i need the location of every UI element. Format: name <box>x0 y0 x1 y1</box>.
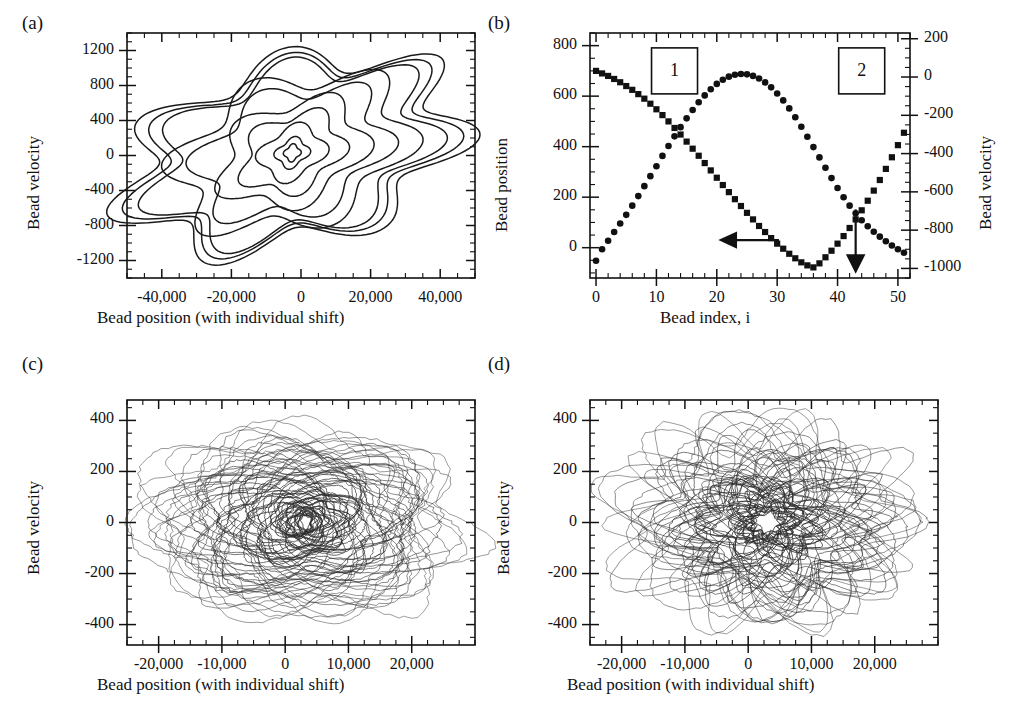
panel-d-ylabel: Bead velocity <box>494 481 514 575</box>
tick-label: -400 <box>548 614 577 632</box>
data-point-position <box>629 87 635 93</box>
tick-label: 200 <box>553 186 577 204</box>
data-point-velocity <box>834 185 841 192</box>
tick-label: 0 <box>106 145 114 163</box>
tick-label: 40,000 <box>418 288 462 306</box>
data-point-velocity <box>701 92 708 99</box>
data-point-velocity <box>593 257 600 264</box>
tick-label: -20,000 <box>207 288 256 306</box>
data-point-position <box>847 225 853 231</box>
data-point-position <box>611 76 617 82</box>
data-point-position <box>605 73 611 79</box>
tick-label: -600 <box>924 181 953 199</box>
data-point-velocity <box>768 84 775 91</box>
tick-label: 400 <box>553 136 577 154</box>
data-point-position <box>714 175 720 181</box>
tick-label: 0 <box>569 237 577 255</box>
data-point-velocity <box>732 71 739 78</box>
tick-label: 0 <box>297 288 305 306</box>
tick-label: -400 <box>85 614 114 632</box>
data-point-velocity <box>689 107 696 114</box>
data-point-velocity <box>883 238 890 245</box>
data-point-velocity <box>623 212 630 219</box>
tick-label: -200 <box>548 563 577 581</box>
tick-label: -200 <box>85 563 114 581</box>
data-point-velocity <box>895 246 902 253</box>
tick-label: 1200 <box>82 40 114 58</box>
data-point-velocity <box>901 249 908 256</box>
data-point-position <box>677 131 683 137</box>
data-point-velocity <box>726 73 733 80</box>
panel-d-xlabel: Bead position (with individual shift) <box>567 675 814 695</box>
tick-label: -800 <box>924 219 953 237</box>
data-point-velocity <box>792 114 799 121</box>
data-point-velocity <box>629 202 636 209</box>
tick-label: 40 <box>830 288 846 306</box>
data-point-position <box>708 167 714 173</box>
tick-label: 800 <box>553 35 577 53</box>
tick-label: 30 <box>769 288 785 306</box>
tick-label: 200 <box>553 460 577 478</box>
panel-c-ylabel: Bead velocity <box>24 481 44 575</box>
data-point-velocity <box>840 194 847 201</box>
tick-label: 400 <box>90 110 114 128</box>
panel-b-ylabel-left: Bead position <box>492 138 512 232</box>
data-point-position <box>877 177 883 183</box>
panel-c-xlabel: Bead position (with individual shift) <box>97 675 344 695</box>
data-point-velocity <box>822 164 829 171</box>
data-point-velocity <box>864 223 871 230</box>
panel-d: (d) Bead velocity Bead position (with in… <box>470 345 1021 715</box>
data-point-position <box>804 262 810 268</box>
data-point-velocity <box>653 163 660 170</box>
data-point-velocity <box>858 217 865 224</box>
panel-a: (a) Bead velocity Bead position (with in… <box>0 0 500 340</box>
data-point-position <box>720 182 726 188</box>
data-point-position <box>792 255 798 261</box>
data-point-velocity <box>659 153 666 160</box>
figure-root: (a) Bead velocity Bead position (with in… <box>0 0 1021 715</box>
tick-label: -400 <box>924 143 953 161</box>
data-point-position <box>810 264 816 270</box>
tick-label: 10,000 <box>789 655 833 673</box>
data-point-velocity <box>617 220 624 227</box>
tick-label: -10,000 <box>197 655 246 673</box>
tick-label: -1000 <box>924 257 961 275</box>
data-point-position <box>756 223 762 229</box>
tick-label: 10,000 <box>326 655 370 673</box>
data-point-position <box>690 146 696 152</box>
data-point-velocity <box>828 175 835 182</box>
tick-label: -800 <box>85 215 114 233</box>
data-point-position <box>617 79 623 85</box>
data-point-velocity <box>756 75 763 82</box>
data-point-position <box>889 154 895 160</box>
data-point-position <box>828 248 834 254</box>
data-point-position <box>895 142 901 148</box>
data-point-velocity <box>877 233 884 240</box>
data-point-position <box>750 216 756 222</box>
data-point-position <box>665 118 671 124</box>
annotation-box-1-label: 1 <box>670 60 679 80</box>
data-point-velocity <box>677 124 684 131</box>
data-point-position <box>732 196 738 202</box>
tick-label: 200 <box>90 460 114 478</box>
data-point-position <box>786 251 792 257</box>
plot-frame <box>127 33 475 278</box>
data-point-position <box>859 207 865 213</box>
data-point-position <box>871 188 877 194</box>
data-point-position <box>883 166 889 172</box>
data-point-velocity <box>611 229 618 236</box>
data-point-position <box>774 241 780 247</box>
panel-c: (c) Bead velocity Bead position (with in… <box>0 345 500 715</box>
tick-label: -200 <box>924 104 953 122</box>
data-point-position <box>780 246 786 252</box>
data-point-position <box>840 233 846 239</box>
tick-label: -20,000 <box>134 655 183 673</box>
trace-group <box>591 408 929 636</box>
data-point-velocity <box>647 173 654 180</box>
data-point-velocity <box>683 115 690 122</box>
tick-label: 400 <box>90 409 114 427</box>
data-point-velocity <box>846 202 853 209</box>
data-point-position <box>744 210 750 216</box>
data-point-velocity <box>713 81 720 88</box>
trace-group <box>125 415 496 624</box>
